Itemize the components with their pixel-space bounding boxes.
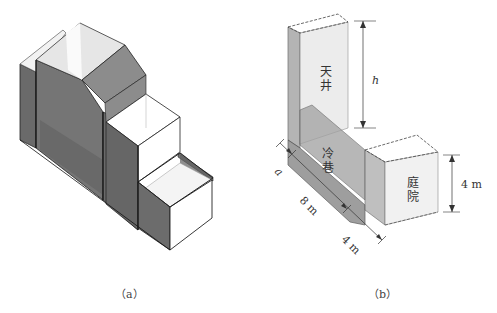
- panel-b-caption: （b）: [368, 288, 397, 301]
- dimension-a-label: a: [272, 165, 286, 179]
- dimension-4m-label: 4 m: [339, 233, 363, 257]
- panel-a-caption: （a）: [115, 288, 144, 301]
- dimension-h-label: h: [372, 74, 379, 87]
- courtyard-label-1: 庭: [407, 175, 419, 190]
- figure-canvas: （a） 天 井 冷 巷 庭 院 h: [0, 0, 497, 313]
- cold-lane-label-2: 巷: [322, 161, 334, 175]
- dimension-8m-label: 8 m: [297, 194, 321, 218]
- skywell-label-2: 井: [320, 79, 332, 93]
- courtyard-left-wall: [365, 150, 385, 225]
- skywell-left-wall: [288, 27, 300, 148]
- dimension-courtyard-height-label: 4 m: [461, 178, 482, 191]
- panel-a-massing-model: （a）: [20, 23, 213, 301]
- courtyard-label-2: 院: [407, 190, 419, 204]
- dimension-courtyard-height: 4 m: [443, 155, 482, 212]
- left-slab-front: [20, 64, 36, 148]
- panel-b-schematic: 天 井 冷 巷 庭 院 h 4 m: [272, 14, 483, 301]
- cold-lane-label-1: 冷: [322, 147, 334, 161]
- dimension-h: h: [354, 21, 379, 128]
- skywell-label-1: 天: [320, 65, 332, 79]
